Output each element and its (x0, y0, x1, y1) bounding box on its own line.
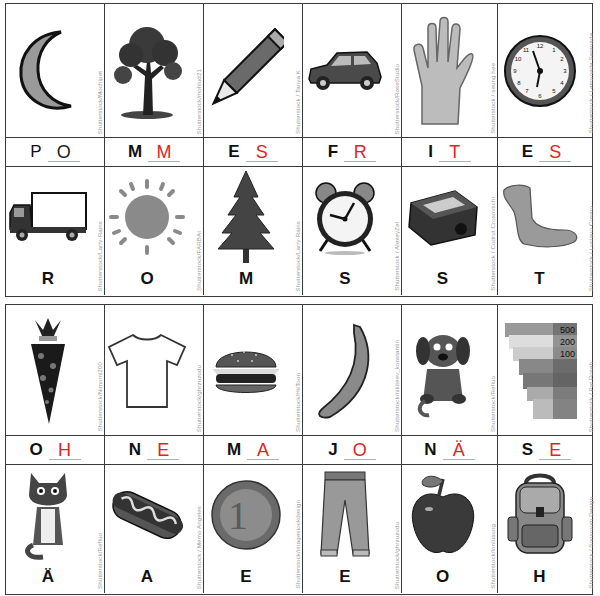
jeans-icon (317, 470, 373, 560)
word-cell: JO (303, 436, 402, 464)
picture-card: 500200100 Shutterstock / Pat Poseh (498, 305, 595, 436)
picture-card: A Shutterstock / Memo Angeles (105, 465, 204, 593)
given-letter: N (129, 440, 141, 460)
answer-blank[interactable]: O (344, 441, 376, 460)
puppy-icon (413, 323, 473, 419)
image-credit: Shutterstock/HitToon (294, 373, 301, 432)
image-credit: Shutterstock / Codrut Crosovschi (489, 197, 496, 291)
fir-tree-icon (216, 169, 276, 265)
word-cell: PO (6, 138, 105, 166)
hand-icon (408, 16, 478, 126)
image-credit: Shutterstock/imagestockdesign (294, 500, 301, 589)
word-cell: NE (105, 436, 204, 464)
answer-blank[interactable]: O (48, 143, 80, 162)
image-credit: Shutterstock/Larry-Rains (96, 221, 103, 292)
answer-blank[interactable]: E (539, 441, 571, 460)
given-letter: E (522, 142, 533, 162)
image-credit: Shutterstock / Sonsroom Design (587, 497, 594, 589)
pencil-icon (208, 21, 284, 121)
car-icon (305, 49, 385, 93)
svg-text:200: 200 (559, 337, 574, 347)
picture-card: Ä Shutterstock/Refluo (6, 465, 105, 593)
answer-blank[interactable]: S (539, 143, 571, 162)
given-letter: N (424, 440, 436, 460)
start-letter: S (402, 269, 483, 289)
svg-text:500: 500 (559, 325, 574, 335)
image-credit: Shutterstock/lonlusung (489, 524, 496, 589)
start-letter: O (402, 567, 483, 587)
image-credit: Shutterstock/mohlud21 (195, 69, 202, 134)
picture-card: 1 E Shutterstock/imagestockdesign (204, 465, 303, 593)
answer-blank[interactable]: Ä (443, 441, 475, 460)
image-credit: Shutterstock/FARBAI (195, 231, 202, 291)
answer-blank[interactable]: R (344, 143, 376, 162)
picture-card: O Shutterstock/lonlusung (402, 465, 498, 593)
start-letter: O (105, 269, 189, 289)
picture-card: Shutterstock / Tanya K (204, 4, 303, 138)
answer-blank[interactable]: H (49, 441, 81, 460)
word-cell: FR (303, 138, 402, 166)
sun-icon (107, 177, 187, 257)
picture-card: Shutterstock/Refluo (402, 305, 498, 436)
given-letter: S (522, 440, 533, 460)
picture-card: Shutterstock/Mochipet (6, 4, 105, 138)
image-credit: Shutterstock/Larry-Rains (294, 221, 301, 292)
image-credit: Shutterstock/Refluo (96, 533, 103, 589)
answer-blank[interactable]: T (439, 143, 471, 162)
svg-text:11: 11 (522, 47, 529, 53)
banana-icon (310, 321, 380, 421)
picture-card: O Shutterstock/FARBAI (105, 167, 204, 295)
picture-row: Shutterstock/Nimomi200 Shutterstock/ghrz… (6, 305, 592, 436)
given-letter: E (228, 142, 239, 162)
image-credit: Shutterstock/Nimomi200 (96, 362, 103, 432)
picture-card: E Shutterstock/ghrzuzudu (303, 465, 402, 593)
word-cell: MM (105, 138, 204, 166)
tshirt-icon (105, 331, 189, 411)
backpack-icon (504, 473, 576, 557)
word-cell: SE (498, 436, 595, 464)
image-credit: Shutterstock/Refluo (489, 376, 496, 432)
worksheet-bottom-block: Shutterstock/Nimomi200 Shutterstock/ghrz… (5, 304, 593, 595)
answer-blank[interactable]: A (247, 441, 279, 460)
given-letter: F (328, 142, 338, 162)
money-icon: 500200100 (501, 321, 579, 421)
image-credit: Shutterstock/Mochipet (96, 71, 103, 134)
word-row: OH NE MA JO NÄ SE (6, 435, 592, 465)
given-letter: J (328, 440, 337, 460)
image-credit: Shutterstock/RoseStudio (393, 64, 400, 134)
picture-row: R Shutterstock/Larry-Rains O Shutterstoc… (6, 167, 592, 295)
picture-card: Shutterstock/Nimomi200 (6, 305, 105, 436)
pencil-sharpener-icon (405, 187, 481, 247)
image-credit: Shutterstock/nikiteev_konstantin (393, 340, 400, 432)
given-letter: P (30, 142, 41, 162)
picture-card: S Shutterstock / Codrut Crosovschi (402, 167, 498, 295)
image-credit: Shutterstock / seung hee (489, 63, 496, 134)
burger-icon (208, 341, 284, 401)
picture-card: R Shutterstock/Larry-Rains (6, 167, 105, 295)
answer-blank[interactable]: M (148, 143, 180, 162)
school-cone-icon (23, 316, 73, 426)
image-credit: Shutterstock/ghrzuzudu (393, 522, 400, 589)
tree-icon (109, 21, 185, 121)
picture-card: Shutterstock/nikiteev_konstantin (303, 305, 402, 436)
given-letter: M (227, 440, 241, 460)
image-credit: Shutterstock / Memo Angeles (195, 506, 202, 589)
answer-blank[interactable]: E (147, 441, 179, 460)
word-cell: MA (204, 436, 303, 464)
picture-card: Shutterstock / seung hee (402, 4, 498, 138)
svg-text:1: 1 (228, 493, 248, 538)
word-cell: OH (6, 436, 105, 464)
image-credit: Shutterstock / Luciano Cosmo (587, 206, 594, 291)
picture-row: Shutterstock/Mochipet Shutterstock/mohlu… (6, 4, 592, 138)
start-letter: A (105, 567, 189, 587)
start-letter: E (303, 567, 387, 587)
image-credit: Shutterstock / Tanya K (294, 70, 301, 134)
start-letter: T (498, 269, 581, 289)
image-credit: Shutterstock / Lemonade Serenade (587, 33, 594, 134)
answer-blank[interactable]: S (246, 143, 278, 162)
clock-icon: 121234567891011 (502, 33, 578, 109)
apple-icon (409, 473, 477, 557)
word-cell: IT (402, 138, 498, 166)
picture-card: Shutterstock/ghrzuzudu (105, 305, 204, 436)
word-cell: ES (498, 138, 595, 166)
